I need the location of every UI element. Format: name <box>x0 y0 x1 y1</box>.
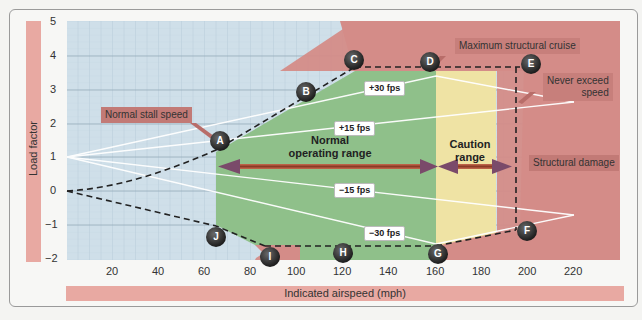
max-structural-cruise-callout: Maximum structural cruise <box>455 38 580 54</box>
caution-range-label: Caution range <box>440 138 500 164</box>
point-g-marker: G <box>428 244 448 264</box>
point-j-marker: J <box>206 227 226 247</box>
point-h-marker: H <box>333 243 353 263</box>
x-tick: 120 <box>333 265 351 277</box>
normal-operating-range-label: Normal operating range <box>270 134 390 160</box>
y-tick: 4 <box>50 49 56 61</box>
point-i-marker: I <box>260 247 280 267</box>
x-axis-label: Indicated airspeed (mph) <box>66 286 624 301</box>
minus15-fps-label: −15 fps <box>334 183 375 198</box>
point-b-marker: B <box>296 82 316 102</box>
x-tick: 220 <box>564 265 582 277</box>
y-tick: 2 <box>50 117 56 129</box>
never-exceed-line1: Never exceed <box>547 75 609 87</box>
x-tick: 40 <box>152 265 164 277</box>
x-tick: 200 <box>518 265 536 277</box>
normal-range-line2: operating range <box>270 147 390 160</box>
point-c-marker: C <box>344 50 364 70</box>
y-tick: −2 <box>45 252 58 264</box>
never-exceed-line2: speed <box>547 87 609 99</box>
x-tick: 60 <box>198 265 210 277</box>
x-tick: 180 <box>472 265 490 277</box>
structural-damage-callout: Structural damage <box>529 155 619 171</box>
y-tick: 3 <box>50 83 56 95</box>
point-e-marker: E <box>521 54 541 74</box>
x-tick: 100 <box>287 265 305 277</box>
y-tick: 5 <box>50 15 56 27</box>
normal-stall-speed-callout: Normal stall speed <box>101 107 192 123</box>
x-tick: 160 <box>426 265 444 277</box>
point-d-marker: D <box>420 52 440 72</box>
y-tick: −1 <box>45 218 58 230</box>
y-tick: 1 <box>50 150 56 162</box>
plus30-fps-label: +30 fps <box>364 81 405 96</box>
x-tick: 140 <box>379 265 397 277</box>
y-tick: 0 <box>50 184 56 196</box>
caution-line1: Caution <box>440 138 500 151</box>
minus30-fps-label: −30 fps <box>364 226 405 241</box>
point-f-marker: F <box>517 221 537 241</box>
x-axis-label-bar: Indicated airspeed (mph) <box>66 286 624 301</box>
x-tick: 20 <box>106 265 118 277</box>
x-tick: 80 <box>244 265 256 277</box>
plus15-fps-label: +15 fps <box>334 121 375 136</box>
point-a-marker: A <box>210 131 230 151</box>
caution-line2: range <box>440 151 500 164</box>
never-exceed-speed-callout: Never exceed speed <box>543 73 613 101</box>
